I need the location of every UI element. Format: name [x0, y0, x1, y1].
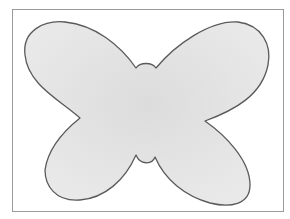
picture-canvas: butterfly outline: [0, 0, 290, 219]
butterfly-drawing: [0, 0, 290, 219]
butterfly-shape: [25, 22, 269, 205]
